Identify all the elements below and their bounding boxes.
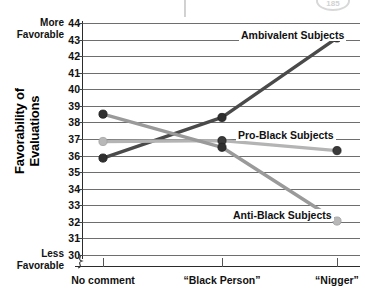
x-category-label: “Nigger” xyxy=(315,274,359,286)
x-tick-mark xyxy=(337,258,338,267)
y-tick-label: 32 xyxy=(58,216,80,228)
gridline xyxy=(83,255,360,256)
y-tick-label: 43 xyxy=(58,34,80,46)
data-point-marker xyxy=(99,110,107,118)
series-label-ambivalent: Ambivalent Subjects xyxy=(239,29,346,41)
series-label-pro-black: Pro-Black Subjects xyxy=(236,129,336,141)
series-anti-black-subjects xyxy=(99,110,341,225)
data-point-marker xyxy=(99,137,107,145)
x-axis-line xyxy=(75,266,360,267)
y-tick-label: 37 xyxy=(58,133,80,145)
axis-note-less-favorable: Less Favorable xyxy=(2,248,64,271)
y-tick-label: 31 xyxy=(58,232,80,244)
y-tick-label: 33 xyxy=(58,199,80,211)
y-tick-label: 34 xyxy=(58,183,80,195)
y-tick-label: 40 xyxy=(58,83,80,95)
data-point-marker xyxy=(333,217,341,225)
scan-rule-artifact xyxy=(184,0,186,17)
y-tick-label: 42 xyxy=(58,50,80,62)
y-tick-label: 35 xyxy=(58,166,80,178)
y-tick-label: 39 xyxy=(58,100,80,112)
x-category-label: “Black Person” xyxy=(183,274,260,286)
y-tick-label: 36 xyxy=(58,150,80,162)
chart-figure: 185 More Favorable Less Favorable Favora… xyxy=(0,0,365,294)
axis-note-more-favorable: More Favorable xyxy=(2,17,64,40)
data-point-marker xyxy=(99,154,107,162)
data-point-marker xyxy=(218,143,226,151)
x-tick-mark xyxy=(103,258,104,267)
series-label-anti-black: Anti-Black Subjects xyxy=(231,209,334,221)
y-axis-title: Favorability of Evaluations xyxy=(0,51,54,211)
x-category-label: No comment xyxy=(71,274,135,286)
y-tick-label: 41 xyxy=(58,67,80,79)
y-axis-title-text: Favorability of Evaluations xyxy=(12,88,42,174)
y-tick-label: 38 xyxy=(58,116,80,128)
x-tick-mark xyxy=(222,258,223,267)
page-number-badge: 185 xyxy=(316,0,350,11)
y-tick-label: 30 xyxy=(58,249,80,261)
data-point-marker xyxy=(218,113,226,121)
y-tick-label: 44 xyxy=(58,17,80,29)
data-point-marker xyxy=(333,147,341,155)
